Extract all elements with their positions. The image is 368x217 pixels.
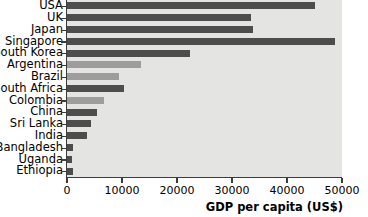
x-axis-tick-label: 40000 bbox=[270, 184, 305, 197]
x-axis-tick-label: 10000 bbox=[105, 184, 140, 197]
x-axis-spine bbox=[66, 177, 342, 178]
bar-chart: USAUKJapanSingaporeSouth KoreaArgentinaB… bbox=[0, 0, 368, 217]
y-axis-tick bbox=[61, 124, 67, 125]
category-label: Ethiopia bbox=[0, 164, 63, 178]
x-axis-title: GDP per capita (US$) bbox=[0, 200, 343, 214]
y-axis-tick bbox=[61, 112, 67, 113]
y-axis-tick bbox=[61, 41, 67, 42]
x-axis-tick bbox=[341, 178, 342, 183]
y-axis-tick bbox=[61, 18, 67, 19]
y-axis-tick bbox=[61, 136, 67, 137]
y-axis-tick bbox=[61, 171, 67, 172]
x-axis-tick-label: 20000 bbox=[160, 184, 195, 197]
x-axis-tick-label: 30000 bbox=[215, 184, 250, 197]
y-axis-tick bbox=[61, 53, 67, 54]
y-axis-tick bbox=[61, 30, 67, 31]
x-axis-tick-label: 0 bbox=[64, 184, 71, 197]
x-axis-tick bbox=[231, 178, 232, 183]
category-axis-labels: USAUKJapanSingaporeSouth KoreaArgentinaB… bbox=[0, 0, 368, 177]
y-axis-tick bbox=[61, 6, 67, 7]
y-axis-tick bbox=[61, 89, 67, 90]
x-axis-tick bbox=[176, 178, 177, 183]
y-axis-tick bbox=[61, 100, 67, 101]
x-axis-tick-label: 50000 bbox=[325, 184, 360, 197]
x-axis-tick bbox=[66, 178, 67, 183]
y-axis-tick bbox=[61, 159, 67, 160]
x-axis-tick bbox=[121, 178, 122, 183]
y-axis-tick bbox=[61, 148, 67, 149]
y-axis-tick bbox=[61, 77, 67, 78]
x-axis-tick bbox=[286, 178, 287, 183]
y-axis-tick bbox=[61, 65, 67, 66]
